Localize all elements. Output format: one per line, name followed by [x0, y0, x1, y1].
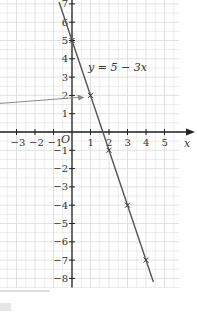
- data-series: [59, 2, 153, 282]
- y-tick-label: −4: [53, 200, 68, 211]
- x-tick-label: −3: [11, 137, 26, 148]
- y-tick-label: −6: [53, 236, 68, 247]
- tick-labels: −3−2−112345−8−7−6−5−4−3−2−11234567: [11, 0, 168, 284]
- y-tick-label: 2: [62, 90, 68, 101]
- x-tick-label: −2: [29, 137, 44, 148]
- equation-label: y = 5 − 3x: [87, 61, 148, 74]
- y-tick-label: −2: [53, 163, 68, 174]
- x-tick-label: 3: [125, 137, 131, 148]
- x-tick-label: 1: [88, 137, 94, 148]
- y-tick-label: 1: [62, 108, 68, 119]
- y-tick-label: 4: [62, 53, 68, 64]
- footer-block: [0, 303, 11, 311]
- line-chart: −3−2−112345−8−7−6−5−4−3−2−11234567 y = 5…: [0, 0, 197, 313]
- y-tick-label: 3: [62, 72, 68, 83]
- series-line: [59, 2, 153, 282]
- x-axis-arrow-icon: [186, 129, 195, 136]
- y-tick-label: 5: [62, 35, 68, 46]
- x-axis-label: x: [184, 137, 191, 150]
- y-tick-label: −7: [53, 255, 68, 266]
- y-tick-label: 7: [62, 0, 68, 9]
- y-tick-label: −3: [53, 181, 68, 192]
- origin-label: O: [61, 133, 70, 146]
- y-tick-label: −5: [53, 218, 68, 229]
- x-tick-label: 5: [162, 137, 168, 148]
- y-tick-label: −8: [53, 273, 68, 284]
- y-tick-label: −1: [53, 145, 68, 156]
- x-tick-label: 4: [143, 137, 149, 148]
